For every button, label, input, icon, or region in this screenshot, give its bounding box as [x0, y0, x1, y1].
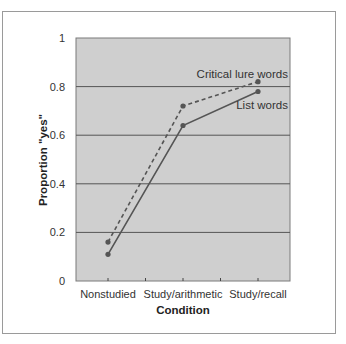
data-point	[105, 240, 110, 245]
y-tick-label: 0	[59, 275, 65, 287]
data-point	[105, 252, 110, 257]
y-tick-label: 0.2	[50, 226, 65, 238]
series-label-critical-lure: Critical lure words	[197, 68, 289, 80]
x-tick-label: Nonstudied	[80, 288, 136, 300]
y-tick-label: 0.4	[50, 178, 65, 190]
series-label-list-words: List words	[236, 99, 288, 111]
x-axis-title: Condition	[156, 304, 210, 316]
y-tick-label: 1	[59, 32, 65, 44]
y-axis-ticks: 00.20.40.60.81	[50, 32, 65, 287]
y-tick-label: 0.8	[50, 81, 65, 93]
data-point	[180, 123, 185, 128]
x-tick-label: Study/arithmetic	[144, 288, 223, 300]
line-chart: 00.20.40.60.81 NonstudiedStudy/arithmeti…	[0, 0, 346, 344]
data-point	[180, 103, 185, 108]
y-tick-label: 0.6	[50, 129, 65, 141]
data-point	[255, 89, 260, 94]
y-axis-title: Proportion "yes"	[37, 114, 49, 206]
x-tick-label: Study/recall	[229, 288, 286, 300]
